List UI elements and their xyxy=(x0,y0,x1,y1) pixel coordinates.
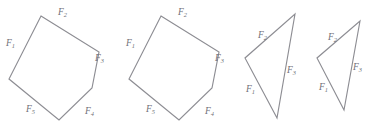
force-polygon-1-label-f5: F5 xyxy=(25,104,35,115)
force-polygon-3-label-f1: F1 xyxy=(245,84,255,95)
shape-layer xyxy=(9,14,360,120)
force-polygon-1-label-f1: F1 xyxy=(5,38,15,49)
force-polygon-3-label-f3: F3 xyxy=(286,65,296,76)
force-polygon-2 xyxy=(129,16,219,120)
force-subscript: 4 xyxy=(91,110,95,117)
force-polygon-1-label-f4: F4 xyxy=(84,106,95,117)
force-polygon-1 xyxy=(9,16,99,120)
force-subscript: 5 xyxy=(32,108,35,115)
force-subscript: 1 xyxy=(132,42,135,49)
force-polygon-2-label-f5: F5 xyxy=(145,104,155,115)
force-subscript: 2 xyxy=(64,11,68,18)
label-layer: F1F2F3F4F5F1F2F3F4F5F1F2F3F1F2F3 xyxy=(5,7,362,117)
force-polygon-1-label-f3: F3 xyxy=(94,53,104,64)
force-subscript: 5 xyxy=(152,108,155,115)
force-polygon-2-label-f2: F2 xyxy=(177,7,188,18)
force-polygon-1-label-f2: F2 xyxy=(57,7,68,18)
force-subscript: 4 xyxy=(211,110,215,117)
force-polygon-2-label-f3: F3 xyxy=(214,53,224,64)
force-subscript: 3 xyxy=(220,57,224,64)
force-polygon-2-label-f1: F1 xyxy=(125,38,135,49)
force-polygon-figure: F1F2F3F4F5F1F2F3F4F5F1F2F3F1F2F3 xyxy=(0,0,368,136)
force-polygon-4-label-f2: F2 xyxy=(327,32,338,43)
figure-canvas: F1F2F3F4F5F1F2F3F4F5F1F2F3F1F2F3 xyxy=(0,0,368,136)
force-subscript: 1 xyxy=(325,86,328,93)
force-subscript: 2 xyxy=(334,36,338,43)
force-subscript: 3 xyxy=(100,57,104,64)
force-subscript: 3 xyxy=(358,66,362,73)
force-subscript: 1 xyxy=(252,88,255,95)
force-polygon-3-label-f2: F2 xyxy=(257,30,268,41)
force-polygon-4-label-f1: F1 xyxy=(318,82,328,93)
force-subscript: 3 xyxy=(292,69,296,76)
force-subscript: 2 xyxy=(184,11,188,18)
force-polygon-2-label-f4: F4 xyxy=(204,106,215,117)
force-subscript: 1 xyxy=(12,42,15,49)
force-polygon-4-label-f3: F3 xyxy=(352,62,362,73)
